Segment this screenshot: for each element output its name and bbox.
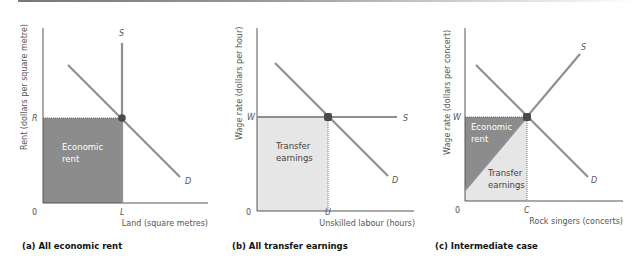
transfer-earnings-area [257, 117, 328, 211]
transfer-label-line2: earnings [488, 180, 525, 190]
x-tick-l: L [120, 208, 124, 217]
panel-caption: (a) All economic rent [22, 241, 122, 251]
supply-label: S [581, 43, 586, 52]
origin-label: 0 [32, 208, 37, 217]
y-tick-w: W [247, 113, 256, 122]
x-axis-label: Land (square metres) [122, 219, 208, 228]
equilibrium-point [118, 114, 126, 122]
demand-label: D [392, 176, 398, 185]
y-tick-w: W [453, 113, 462, 122]
y-tick-r: R [32, 114, 38, 123]
x-tick-u: U [325, 208, 331, 217]
supply-label: S [119, 29, 124, 38]
figure: S D R L 0 Economic rent Land (square met… [0, 0, 644, 270]
y-axis-label: Rent (dollars per square metre) [20, 24, 29, 150]
economic-rent-area [43, 118, 122, 203]
panel-a: S D R L 0 Economic rent Land (square met… [20, 24, 208, 251]
panel-caption: (b) All transfer earnings [232, 241, 348, 251]
origin-label: 0 [246, 208, 251, 217]
rent-label-line1: Economic [471, 122, 512, 132]
panel-caption: (c) Intermediate case [435, 241, 538, 251]
supply-label: S [403, 114, 408, 123]
equilibrium-point [324, 113, 332, 121]
x-axis-label: Unskilled labour (hours) [319, 219, 415, 228]
demand-label: D [591, 176, 597, 185]
demand-label: D [185, 177, 191, 186]
area-label-line2: earnings [276, 153, 313, 163]
area-label-line2: rent [62, 154, 80, 164]
area-label-line1: Transfer [275, 141, 311, 151]
y-axis-label: Wage rate (dollars per hour) [235, 27, 244, 140]
panel-b: S D W U 0 Transfer earnings Unskilled la… [232, 27, 415, 251]
transfer-label-line1: Transfer [487, 168, 523, 178]
x-axis-label: Rock singers (concerts) [529, 217, 623, 226]
area-label-line1: Economic [62, 142, 103, 152]
origin-label: 0 [455, 206, 460, 215]
equilibrium-point [523, 113, 531, 121]
rent-label-line2: rent [471, 134, 489, 144]
y-axis-label: Wage rate (dollars per concert) [443, 30, 452, 155]
panel-c: S D W C 0 Economic rent Transfer earning… [435, 28, 623, 251]
x-tick-c: C [524, 206, 530, 215]
